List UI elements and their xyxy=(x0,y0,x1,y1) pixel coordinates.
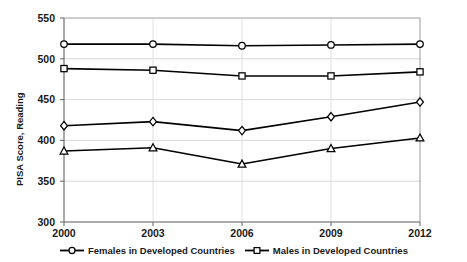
data-point-marker-diamond xyxy=(150,117,157,125)
data-point-marker-circle xyxy=(61,41,68,48)
y-axis-tick-label: 550 xyxy=(37,12,55,24)
data-point-marker-circle xyxy=(150,41,157,48)
data-point-marker-square xyxy=(150,67,156,73)
data-point-marker-circle xyxy=(328,42,335,49)
chart-legend: Females in Developed CountriesMales in D… xyxy=(0,244,467,257)
data-point-marker-diamond xyxy=(239,126,246,134)
y-axis-tick-label: 350 xyxy=(37,175,55,187)
legend-marker-circle-icon xyxy=(59,244,85,257)
x-axis-tick-label: 2012 xyxy=(408,227,432,239)
x-axis-tick-label: 2006 xyxy=(230,227,254,239)
data-point-marker-circle xyxy=(417,41,424,48)
x-axis-tick-label: 2000 xyxy=(52,227,76,239)
data-point-marker-diamond xyxy=(328,113,335,121)
chart-series xyxy=(61,41,424,49)
data-point-marker-square xyxy=(239,73,245,79)
data-point-marker-circle xyxy=(69,247,75,253)
data-point-marker-square xyxy=(417,69,423,75)
data-point-marker-square xyxy=(254,248,260,254)
line-chart-plot: 30035040045050055020002003200620092012 xyxy=(0,0,467,262)
y-axis-tick-label: 400 xyxy=(37,134,55,146)
legend-marker-square-icon xyxy=(244,244,270,257)
y-axis-tick-label: 450 xyxy=(37,93,55,105)
y-axis-tick-label: 500 xyxy=(37,53,55,65)
data-point-marker-circle xyxy=(239,42,246,49)
x-axis-tick-label: 2009 xyxy=(319,227,343,239)
legend-item[interactable]: Females in Developed Countries xyxy=(59,244,235,257)
legend-label: Females in Developed Countries xyxy=(88,245,235,256)
data-point-marker-diamond xyxy=(417,98,424,106)
data-point-marker-diamond xyxy=(61,122,68,130)
data-point-marker-square xyxy=(61,65,67,71)
data-point-marker-square xyxy=(328,73,334,79)
legend-label: Males in Developed Countries xyxy=(273,245,408,256)
legend-item[interactable]: Males in Developed Countries xyxy=(244,244,408,257)
chart-figure: PISA Score, Reading 30035040045050055020… xyxy=(0,0,467,262)
x-axis-tick-label: 2003 xyxy=(141,227,165,239)
y-axis-tick-label: 300 xyxy=(37,216,55,228)
